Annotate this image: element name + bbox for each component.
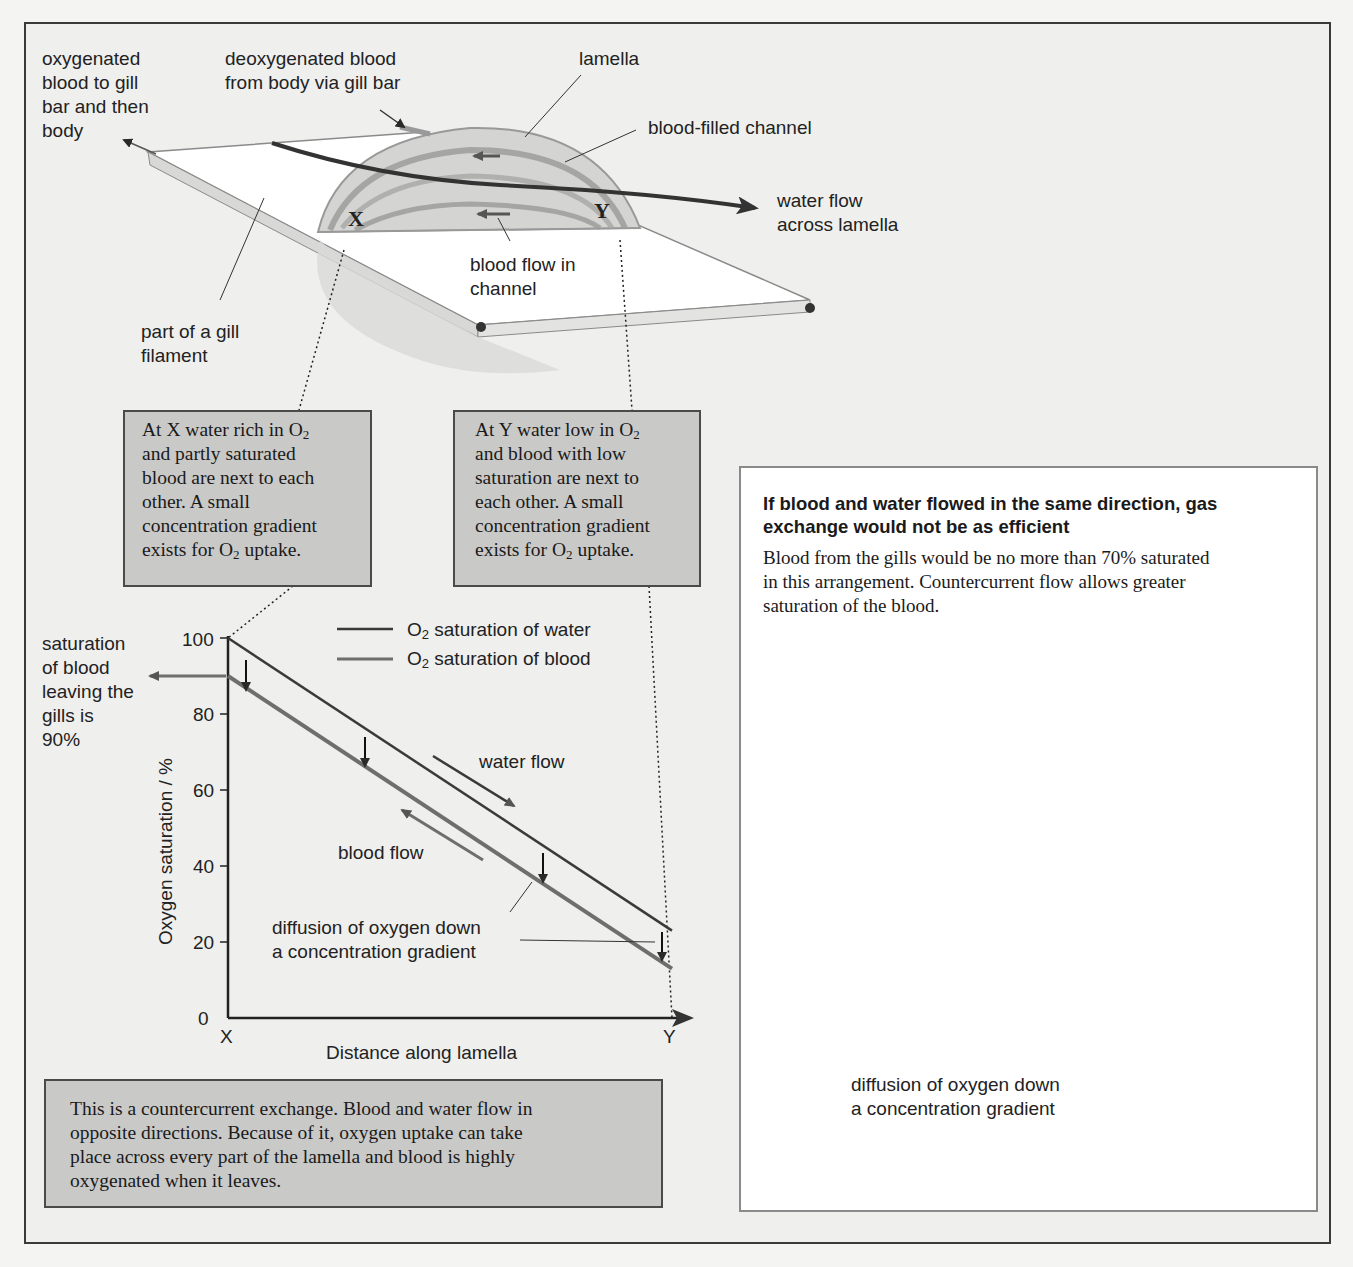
callout-at-y: At Y water low in O2 and blood with low … xyxy=(453,410,701,587)
label-blood-filled-channel: blood-filled channel xyxy=(648,116,812,140)
svg-text:X: X xyxy=(220,1026,233,1047)
svg-text:Distance along lamella: Distance along lamella xyxy=(326,1042,518,1063)
svg-text:100: 100 xyxy=(182,629,214,650)
panel-body: Blood from the gills would be no more th… xyxy=(763,546,1209,618)
label-oxygenated-blood: oxygenated blood to gill bar and then bo… xyxy=(42,47,149,143)
label-lamella: lamella xyxy=(579,47,639,71)
label-saturation-leaving-gills: saturation of blood leaving the gills is… xyxy=(42,632,134,752)
label-water-flow-across-lamella: water flow across lamella xyxy=(777,189,898,237)
svg-text:80: 80 xyxy=(193,704,214,725)
callout-at-x: At X water rich in O2 and partly saturat… xyxy=(123,410,372,587)
summary-countercurrent: This is a countercurrent exchange. Blood… xyxy=(44,1079,663,1208)
svg-text:40: 40 xyxy=(193,856,214,877)
legend-water: O2 saturation of water xyxy=(407,618,591,642)
parallel-flow-panel: If blood and water flowed in the same di… xyxy=(739,466,1318,1212)
label-blood-flow-in-channel: blood flow in channel xyxy=(470,253,576,301)
point-x-label: X xyxy=(348,206,364,231)
svg-text:20: 20 xyxy=(193,932,214,953)
label-blood-flow: blood flow xyxy=(338,841,424,865)
label-diffusion-left: diffusion of oxygen down a concentration… xyxy=(272,916,481,964)
panel-title: If blood and water flowed in the same di… xyxy=(763,492,1217,538)
svg-text:0: 0 xyxy=(198,1008,209,1029)
legend-blood: O2 saturation of blood xyxy=(407,647,591,671)
svg-text:Oxygen saturation / %: Oxygen saturation / % xyxy=(155,758,176,945)
water-saturation-line xyxy=(228,638,672,931)
svg-text:Y: Y xyxy=(663,1026,676,1047)
label-water-flow: water flow xyxy=(479,750,565,774)
svg-text:60: 60 xyxy=(193,780,214,801)
label-diffusion-right: diffusion of oxygen down a concentration… xyxy=(851,1073,1060,1121)
point-y-label: Y xyxy=(594,198,610,223)
label-deoxygenated-blood: deoxygenated blood from body via gill ba… xyxy=(225,47,400,95)
label-gill-filament: part of a gill filament xyxy=(141,320,239,368)
